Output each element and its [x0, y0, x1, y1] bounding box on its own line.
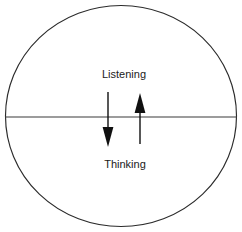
thinking-label: Thinking [104, 158, 146, 170]
diagram-canvas: Listening Thinking [0, 0, 242, 232]
circle-outline [6, 6, 237, 227]
listening-thinking-diagram: Listening Thinking [0, 0, 242, 232]
listening-label: Listening [102, 68, 146, 80]
